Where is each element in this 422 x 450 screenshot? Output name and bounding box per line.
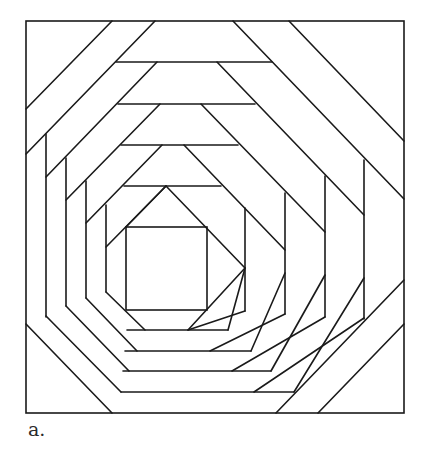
right-strips <box>245 160 364 319</box>
center-diamond <box>106 186 245 330</box>
top-left-diagonals <box>26 21 166 247</box>
left-strips <box>46 134 106 317</box>
center-square <box>126 227 207 310</box>
top-right-diagonals <box>184 21 404 250</box>
figure-caption: a. <box>28 418 45 440</box>
pineapple-block-diagram <box>0 0 422 450</box>
bottom-left-diagonals <box>26 298 137 413</box>
